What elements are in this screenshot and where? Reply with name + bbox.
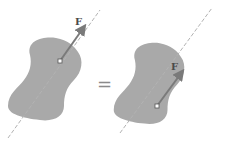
left-application-point — [58, 59, 62, 63]
left-force-label: F — [75, 17, 82, 27]
right-application-point — [155, 104, 159, 108]
right-rigid-body-group — [114, 8, 212, 133]
left-rigid-body — [8, 38, 81, 121]
equals-sign: = — [97, 75, 112, 93]
left-rigid-body-group — [8, 10, 100, 138]
right-force-label: F — [171, 62, 178, 72]
transmissibility-diagram: F F = — [0, 0, 228, 143]
